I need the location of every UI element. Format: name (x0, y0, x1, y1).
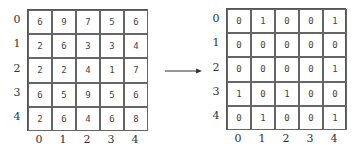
grid-cell: 6 (52, 107, 76, 131)
output-grid: 0100100000000011010001001 (226, 8, 346, 130)
grid-cell: 0 (275, 33, 299, 57)
col-label: 2 (81, 133, 93, 146)
grid-cell: 0 (275, 106, 299, 130)
grid-cell: 8 (124, 107, 148, 131)
grid-cell: 5 (100, 10, 124, 34)
grid-cell: 0 (227, 106, 251, 130)
grid-cell: 1 (251, 106, 275, 130)
row-label: 3 (210, 85, 222, 98)
grid-cell: 3 (76, 34, 100, 58)
col-label: 0 (232, 132, 244, 145)
grid-cell: 0 (227, 9, 251, 33)
grid-cell: 2 (28, 107, 52, 131)
grid-cell: 9 (76, 83, 100, 107)
grid-cell: 4 (124, 34, 148, 58)
col-label: 3 (105, 133, 117, 146)
grid-cell: 4 (76, 58, 100, 82)
grid-cell: 1 (100, 58, 124, 82)
grid-cell: 0 (323, 33, 347, 57)
arrow-right-icon (164, 66, 204, 76)
grid-cell: 9 (52, 10, 76, 34)
grid-cell: 0 (299, 106, 323, 130)
row-label: 1 (11, 37, 23, 50)
input-grid: 6975626334224176595626468 (27, 9, 148, 131)
grid-cell: 2 (52, 58, 76, 82)
grid-cell: 5 (52, 83, 76, 107)
grid-cell: 6 (28, 10, 52, 34)
grid-cell: 4 (76, 107, 100, 131)
grid-cell: 1 (323, 9, 347, 33)
row-label: 2 (11, 62, 23, 75)
grid-cell: 6 (124, 10, 148, 34)
grid-cell: 2 (28, 34, 52, 58)
row-label: 2 (210, 61, 222, 74)
grid-cell: 0 (275, 57, 299, 81)
grid-cell: 0 (251, 82, 275, 106)
row-label: 1 (210, 36, 222, 49)
grid-cell: 0 (323, 82, 347, 106)
row-label: 3 (11, 86, 23, 99)
col-label: 2 (280, 132, 292, 145)
grid-cell: 0 (275, 9, 299, 33)
grid-cell: 3 (100, 34, 124, 58)
col-label: 0 (33, 133, 45, 146)
grid-cell: 0 (227, 33, 251, 57)
row-label: 4 (11, 110, 23, 123)
col-label: 1 (256, 132, 268, 145)
grid-cell: 6 (52, 34, 76, 58)
grid-cell: 7 (124, 58, 148, 82)
grid-cell: 1 (227, 82, 251, 106)
grid-cell: 6 (100, 107, 124, 131)
col-label: 1 (57, 133, 69, 146)
grid-cell: 1 (275, 82, 299, 106)
grid-cell: 0 (251, 33, 275, 57)
col-label: 4 (328, 132, 340, 145)
grid-cell: 0 (299, 33, 323, 57)
grid-cell: 0 (251, 57, 275, 81)
grid-cell: 0 (299, 82, 323, 106)
grid-cell: 0 (299, 9, 323, 33)
grid-cell: 7 (76, 10, 100, 34)
grid-cell: 1 (251, 9, 275, 33)
grid-cell: 1 (323, 106, 347, 130)
row-label: 0 (210, 12, 222, 25)
row-label: 4 (210, 109, 222, 122)
grid-cell: 6 (28, 83, 52, 107)
col-label: 3 (304, 132, 316, 145)
grid-cell: 0 (227, 57, 251, 81)
col-label: 4 (129, 133, 141, 146)
grid-cell: 6 (124, 83, 148, 107)
grid-cell: 1 (323, 57, 347, 81)
grid-cell: 5 (100, 83, 124, 107)
row-label: 0 (11, 13, 23, 26)
grid-cell: 2 (28, 58, 52, 82)
grid-cell: 0 (299, 57, 323, 81)
